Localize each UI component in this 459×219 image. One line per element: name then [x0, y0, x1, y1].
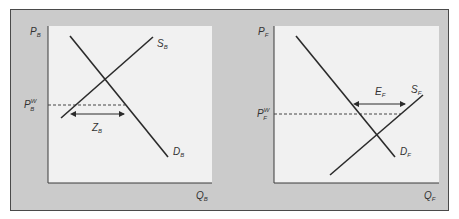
y-axis-label-foreign: PF [258, 26, 269, 38]
panel-home-market: PB PWB SB DB ZB QB [24, 26, 212, 202]
world-price-label-home: PWB [24, 98, 38, 112]
plot-area-home [48, 26, 212, 183]
panel-foreign-market: PF PWF EF SF DF QF [257, 26, 439, 202]
x-axis-label-home: QB [196, 190, 208, 202]
plot-area-foreign [274, 26, 439, 183]
world-price-label-foreign: PWF [257, 107, 271, 121]
diagram-canvas: PB PWB SB DB ZB QB PF PWF EF SF DF QF [0, 0, 459, 219]
y-axis-label-home: PB [30, 26, 41, 38]
x-axis-label-foreign: QF [424, 190, 436, 202]
